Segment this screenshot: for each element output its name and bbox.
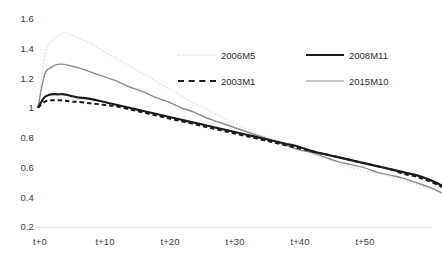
x-tick-label: t+30: [215, 236, 255, 247]
legend-item-2008m11[interactable]: 2008M11: [304, 48, 388, 62]
series-line-2008m11: [38, 94, 442, 186]
legend-swatch-solid-thin-icon: [304, 75, 346, 87]
y-tick-label: 0.4: [8, 192, 34, 203]
x-tick-label: t+50: [345, 236, 385, 247]
legend-swatch-dotted-icon: [176, 49, 218, 61]
y-tick-label: 0.8: [8, 132, 34, 143]
legend-item-2015m10[interactable]: 2015M10: [304, 74, 389, 88]
y-tick-label: 1: [8, 102, 34, 113]
legend-item-2003m1[interactable]: 2003M1: [176, 74, 255, 88]
y-tick-label: 1.4: [8, 43, 34, 54]
legend-label: 2003M1: [218, 76, 255, 87]
y-tick-label: 0.6: [8, 162, 34, 173]
line-chart: 1.6 1.4 1.2 1 0.8 0.6 0.4 0.2 t+0 t+10 t…: [0, 0, 442, 259]
x-tick-label: t+40: [280, 236, 320, 247]
legend-label: 2008M11: [346, 50, 388, 61]
legend-label: 2015M10: [346, 76, 389, 87]
x-tick-label: t+10: [85, 236, 125, 247]
x-tick-label: t+20: [150, 236, 190, 247]
y-tick-label: 1.6: [8, 13, 34, 24]
legend-swatch-solid-thick-icon: [304, 49, 346, 61]
legend-label: 2006M5: [218, 50, 255, 61]
legend-swatch-dashed-icon: [176, 75, 218, 87]
y-tick-label: 1.2: [8, 73, 34, 84]
y-tick-label: 0.2: [8, 221, 34, 232]
plot-area: [0, 0, 442, 259]
legend-item-2006m5[interactable]: 2006M5: [176, 48, 255, 62]
x-tick-label: t+0: [20, 236, 60, 247]
chart-legend: 2006M5 2008M11 2003M1 2015M10: [176, 48, 424, 94]
